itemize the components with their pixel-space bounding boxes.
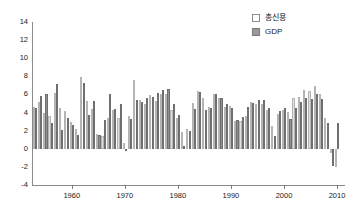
- bar-gdp: [35, 108, 37, 149]
- bar-gdp: [45, 94, 47, 148]
- bar-gdp: [56, 84, 58, 148]
- bar-gdp: [332, 149, 334, 166]
- chart-legend: 총신용 GDP: [252, 14, 286, 42]
- bar-gdp: [205, 110, 207, 149]
- x-tick-label: 1960: [52, 192, 92, 200]
- x-tick-mark: [337, 185, 338, 189]
- legend-item-credit: 총신용: [252, 14, 286, 22]
- bar-gdp: [104, 120, 106, 149]
- x-tick-mark: [284, 185, 285, 189]
- bar-gdp: [337, 123, 339, 149]
- bar-gdp: [274, 136, 276, 149]
- legend-item-gdp: GDP: [252, 28, 286, 36]
- bar-gdp: [120, 104, 122, 149]
- bar-gdp: [284, 108, 286, 149]
- bar-gdp: [72, 125, 74, 149]
- bar-gdp: [162, 90, 164, 149]
- y-tick-label: 0: [0, 145, 28, 153]
- bar-gdp: [194, 109, 196, 149]
- bar-gdp: [327, 123, 329, 149]
- plot-area: [32, 22, 345, 185]
- bar-gdp: [51, 123, 53, 148]
- bar-gdp: [295, 108, 297, 149]
- bar-gdp: [263, 100, 265, 149]
- bar-gdp: [136, 100, 138, 149]
- bar-gdp: [93, 101, 95, 149]
- x-tick-label: 2010: [317, 192, 350, 200]
- bar-gdp: [83, 83, 85, 149]
- x-axis-line: [32, 185, 345, 186]
- bar-gdp: [141, 102, 143, 149]
- bar-gdp: [316, 94, 318, 148]
- y-tick-label: 4: [0, 109, 28, 117]
- bar-gdp: [167, 89, 169, 149]
- bar-gdp: [289, 119, 291, 149]
- bar-gdp: [231, 108, 233, 149]
- bar-gdp: [215, 94, 217, 148]
- bar-credit: [335, 149, 337, 167]
- y-tick-label: 14: [0, 18, 28, 26]
- legend-label-gdp: GDP: [265, 28, 282, 36]
- y-tick-label: 2: [0, 127, 28, 135]
- bar-gdp: [321, 99, 323, 149]
- bar-gdp: [157, 93, 159, 149]
- bar-gdp: [189, 131, 191, 149]
- bar-gdp: [311, 99, 313, 149]
- bar-gdp: [40, 96, 42, 149]
- bar-gdp: [247, 107, 249, 149]
- bar-gdp: [220, 98, 222, 149]
- bar-gdp: [67, 118, 69, 149]
- x-tick-mark: [72, 185, 73, 189]
- bar-gdp: [152, 97, 154, 149]
- bar-gdp: [130, 119, 132, 149]
- bar-gdp: [258, 100, 260, 149]
- bar-gdp: [61, 130, 63, 149]
- bar-gdp: [236, 120, 238, 149]
- bar-gdp: [173, 104, 175, 149]
- bar-gdp: [242, 117, 244, 149]
- y-tick-label: 10: [0, 54, 28, 62]
- x-tick-label: 1980: [158, 192, 198, 200]
- legend-swatch-gdp-icon: [252, 28, 260, 36]
- y-tick-label: 8: [0, 72, 28, 80]
- bar-gdp: [109, 94, 111, 149]
- x-tick-label: 1990: [211, 192, 251, 200]
- bar-gdp: [178, 115, 180, 149]
- bar-gdp: [98, 135, 100, 149]
- y-tick-label: 6: [0, 90, 28, 98]
- x-tick-mark: [125, 185, 126, 189]
- x-tick-mark: [231, 185, 232, 189]
- y-tick-label: 12: [0, 36, 28, 44]
- x-tick-label: 1970: [105, 192, 145, 200]
- bar-gdp: [279, 111, 281, 149]
- bar-gdp: [114, 109, 116, 149]
- bar-gdp: [210, 108, 212, 149]
- legend-label-credit: 총신용: [265, 14, 286, 22]
- y-tick-label: -2: [0, 163, 28, 171]
- legend-swatch-credit-icon: [252, 14, 260, 22]
- bar-gdp: [125, 149, 127, 151]
- bar-gdp: [226, 104, 228, 149]
- x-tick-label: 2000: [264, 192, 304, 200]
- bar-gdp: [305, 98, 307, 149]
- bar-gdp: [183, 146, 185, 149]
- bar-gdp: [77, 135, 79, 149]
- bar-gdp: [146, 98, 148, 149]
- bar-gdp: [199, 92, 201, 149]
- bar-gdp: [300, 102, 302, 149]
- x-tick-mark: [178, 185, 179, 189]
- bar-gdp: [252, 103, 254, 149]
- chart-container: -4-202468101214 196019701980199020002010…: [0, 0, 350, 224]
- y-tick-label: -4: [0, 181, 28, 189]
- bar-gdp: [268, 108, 270, 149]
- bar-gdp: [88, 115, 90, 149]
